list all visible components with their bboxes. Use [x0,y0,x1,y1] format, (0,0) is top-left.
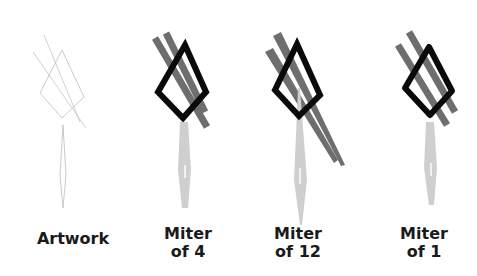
artwork-bar-line-2 [44,35,80,122]
panel-miter-1 [398,32,455,205]
miter1-diamond-stroke [405,47,452,115]
label-miter-4: Miter of 4 [164,225,212,261]
label-artwork: Artwork [37,230,109,248]
panel-miter-4 [155,33,207,208]
panel-artwork [33,35,86,208]
artwork-spindle-outline [60,125,66,208]
miter-limit-diagram: Artwork Miter of 4 Miter of 12 Miter of … [0,0,477,276]
label-miter-12: Miter of 12 [274,225,322,261]
label-miter-1: Miter of 1 [400,225,448,261]
artwork-diamond-outline [40,50,84,118]
panel-miter-12 [265,32,345,225]
